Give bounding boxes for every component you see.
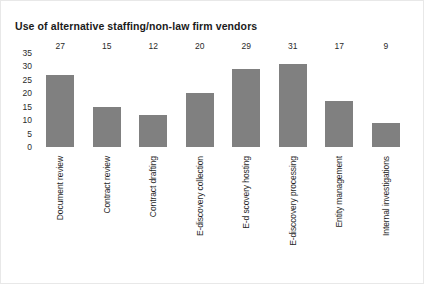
y-axis-tick-7: 0 [27, 142, 32, 152]
bar-value-label: 29 [242, 41, 251, 51]
y-axis-tick-4: 15 [23, 102, 32, 112]
y-axis-tick-0: 35 [23, 48, 32, 58]
bar-rect [93, 107, 121, 147]
y-axis-tick-3: 20 [23, 88, 32, 98]
bar-group: 29E-d scovery hosting [223, 53, 270, 147]
category-label: Contract drafting [148, 156, 158, 217]
plot-area: 35302520151050 27Document review15Contra… [37, 53, 409, 147]
bar-rect [139, 115, 167, 147]
bar-value-label: 31 [288, 41, 297, 51]
y-axis-tick-2: 25 [23, 75, 32, 85]
bar-series: 27Document review15Contract review12Cont… [37, 53, 409, 147]
bar-value-label: 27 [56, 41, 65, 51]
bar-group: 20E-discovery collection [177, 53, 224, 147]
category-label: E-d scovery hosting [241, 156, 251, 229]
bar-group: 15Contract review [84, 53, 131, 147]
chart-figure: Use of alternative staffing/non-law firm… [0, 0, 424, 284]
bar-group: 17Entity management [316, 53, 363, 147]
bar-value-label: 15 [102, 41, 111, 51]
bar-rect [232, 69, 260, 147]
chart-title: Use of alternative staffing/non-law firm… [15, 20, 257, 32]
category-label: Internal investigations [381, 156, 391, 236]
bar-value-label: 17 [335, 41, 344, 51]
bar-value-label: 9 [383, 41, 388, 51]
bar-value-label: 12 [149, 41, 158, 51]
category-label: E-disccovery processing [288, 156, 298, 246]
bar-group: 27Document review [37, 53, 84, 147]
bar-rect [46, 75, 74, 148]
bar-group: 31E-disccovery processing [270, 53, 317, 147]
category-label: E-discovery collection [195, 156, 205, 236]
y-axis-tick-6: 5 [27, 129, 32, 139]
bar-rect [325, 101, 353, 147]
bar-value-label: 20 [195, 41, 204, 51]
bar-group: 9Internal investigations [363, 53, 410, 147]
category-label: Document review [55, 156, 65, 220]
bar-rect [279, 64, 307, 147]
bar-group: 12Contract drafting [130, 53, 177, 147]
category-label: Entity management [334, 156, 344, 228]
bar-rect [372, 123, 400, 147]
y-axis-tick-5: 10 [23, 115, 32, 125]
bar-rect [186, 93, 214, 147]
y-axis-tick-1: 30 [23, 61, 32, 71]
category-label: Contract review [102, 156, 112, 214]
